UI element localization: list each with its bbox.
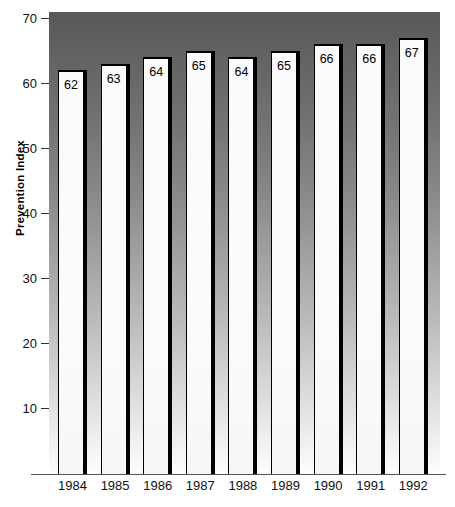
bar: 65 xyxy=(271,51,300,475)
bar-group: 65 xyxy=(186,51,215,475)
y-axis-tick-label: 50 xyxy=(23,142,41,155)
bar-group: 64 xyxy=(228,57,257,474)
y-axis-tick-label: 40 xyxy=(23,207,41,220)
plot-area: 626364656465666667 xyxy=(49,12,440,474)
y-axis-tick-label: 20 xyxy=(23,337,41,350)
bar: 66 xyxy=(314,44,343,474)
x-axis-tick-label: 1990 xyxy=(307,479,350,492)
bar: 67 xyxy=(399,38,428,475)
bar: 66 xyxy=(356,44,385,474)
bar: 62 xyxy=(58,70,87,474)
bar-group: 66 xyxy=(356,44,385,474)
bar: 63 xyxy=(101,64,130,475)
x-axis: 198419851986198719881989199019911992 xyxy=(49,479,440,503)
x-axis-tick-label: 1984 xyxy=(51,479,94,492)
bar-value-label: 63 xyxy=(102,73,126,86)
bar-group: 64 xyxy=(143,57,172,474)
y-axis-tick-label: 60 xyxy=(23,77,41,90)
x-axis-tick-label: 1992 xyxy=(392,479,435,492)
x-axis-tick-label: 1991 xyxy=(349,479,392,492)
x-axis-tick-label: 1985 xyxy=(94,479,137,492)
y-axis-tick-label: 70 xyxy=(23,12,41,25)
bar: 64 xyxy=(228,57,257,474)
y-axis-tick-label: 10 xyxy=(23,402,41,415)
bar-group: 65 xyxy=(271,51,300,475)
x-axis-line xyxy=(31,474,446,475)
bar-value-label: 65 xyxy=(187,60,211,73)
bar-value-label: 64 xyxy=(144,66,168,79)
bar-group: 63 xyxy=(101,64,130,475)
bar-value-label: 67 xyxy=(400,47,424,60)
bar-value-label: 62 xyxy=(59,79,83,92)
bar-value-label: 65 xyxy=(272,60,296,73)
y-axis: 10203040506070 xyxy=(0,0,50,507)
x-axis-tick-label: 1987 xyxy=(179,479,222,492)
bar-chart: Prevention Index 10203040506070 62636465… xyxy=(0,0,455,507)
bar-group: 67 xyxy=(399,38,428,475)
x-axis-tick-label: 1986 xyxy=(136,479,179,492)
bar-group: 62 xyxy=(58,70,87,474)
bar: 65 xyxy=(186,51,215,475)
bar-value-label: 66 xyxy=(315,53,339,66)
bar: 64 xyxy=(143,57,172,474)
x-axis-tick-label: 1989 xyxy=(264,479,307,492)
bar-value-label: 66 xyxy=(357,53,381,66)
bar-value-label: 64 xyxy=(229,66,253,79)
x-axis-tick-label: 1988 xyxy=(221,479,264,492)
bar-group: 66 xyxy=(314,44,343,474)
y-axis-tick-label: 30 xyxy=(23,272,41,285)
